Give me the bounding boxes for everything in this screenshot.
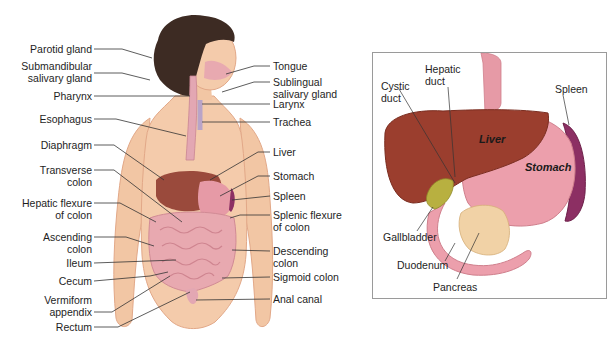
label-cecum: Cecum	[59, 275, 92, 287]
label-pancreas: Pancreas	[433, 281, 477, 293]
detail-panel: Cystic duct Hepatic duct Spleen Gallblad…	[372, 52, 607, 299]
label-liver: Liver	[273, 146, 296, 158]
label-diaphragm: Diaphragm	[41, 139, 92, 151]
label-sublingual-gland: Sublingual salivary gland	[273, 76, 337, 100]
label-hepatic-duct: Hepatic duct	[425, 63, 461, 87]
label-descending-colon: Descending colon	[273, 245, 328, 269]
label-esophagus: Esophagus	[39, 113, 92, 125]
label-stomach: Stomach	[273, 170, 314, 182]
label-ascending-colon: Ascending colon	[43, 231, 92, 255]
label-larynx: Larynx	[273, 98, 305, 110]
label-spleen-detail: Spleen	[555, 83, 588, 95]
label-ileum: Ileum	[66, 257, 92, 269]
label-gallbladder: Gallbladder	[383, 231, 437, 243]
large-intestine	[149, 212, 236, 292]
label-submandibular-gland: Submandibular salivary gland	[21, 60, 92, 84]
organ-label-liver: Liver	[479, 133, 505, 145]
label-trachea: Trachea	[273, 116, 311, 128]
label-rectum: Rectum	[56, 321, 92, 333]
label-pharynx: Pharynx	[53, 90, 92, 102]
organ-label-stomach: Stomach	[525, 161, 571, 173]
label-anal-canal: Anal canal	[273, 293, 322, 305]
label-spleen: Spleen	[273, 190, 306, 202]
label-parotid-gland: Parotid gland	[30, 43, 92, 55]
label-cystic-duct: Cystic duct	[381, 80, 410, 104]
label-transverse-colon: Transverse colon	[40, 164, 92, 188]
label-sigmoid-colon: Sigmoid colon	[273, 271, 339, 283]
label-splenic-flexure: Splenic flexure of colon	[273, 209, 342, 233]
label-duodenum: Duodenum	[397, 259, 448, 271]
label-tongue: Tongue	[273, 60, 307, 72]
label-hepatic-flexure: Hepatic flexure of colon	[22, 197, 92, 221]
label-vermiform-appendix: Vermiform appendix	[44, 294, 92, 318]
pancreas	[459, 205, 509, 255]
